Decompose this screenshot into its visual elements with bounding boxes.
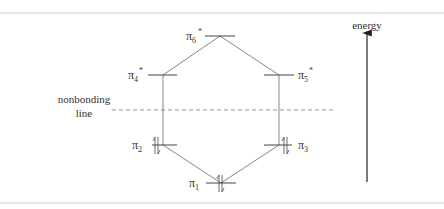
connector-pi6-pi5 [220, 36, 279, 75]
connector-pi3-pi1 [221, 145, 279, 183]
energy-levels [148, 36, 294, 183]
label-pi2: π2 [132, 138, 142, 154]
nonbonding-label-line2: line [76, 107, 93, 119]
nonbonding-label-line1: nonbonding [58, 93, 111, 105]
orbital-labels: π6* π4* π5* π2 π3 π1 [128, 27, 313, 192]
label-pi4: π4* [128, 66, 143, 84]
energy-axis-label: energy [352, 19, 382, 31]
mo-diagram: nonbonding line π6* π4* π5* π2 π3 π1 ene… [0, 0, 444, 209]
label-pi6: π6* [186, 27, 202, 45]
label-pi1: π1 [189, 176, 199, 192]
label-pi5: π5* [298, 66, 313, 84]
label-pi3: π3 [298, 138, 308, 154]
connector-lines [163, 36, 279, 183]
